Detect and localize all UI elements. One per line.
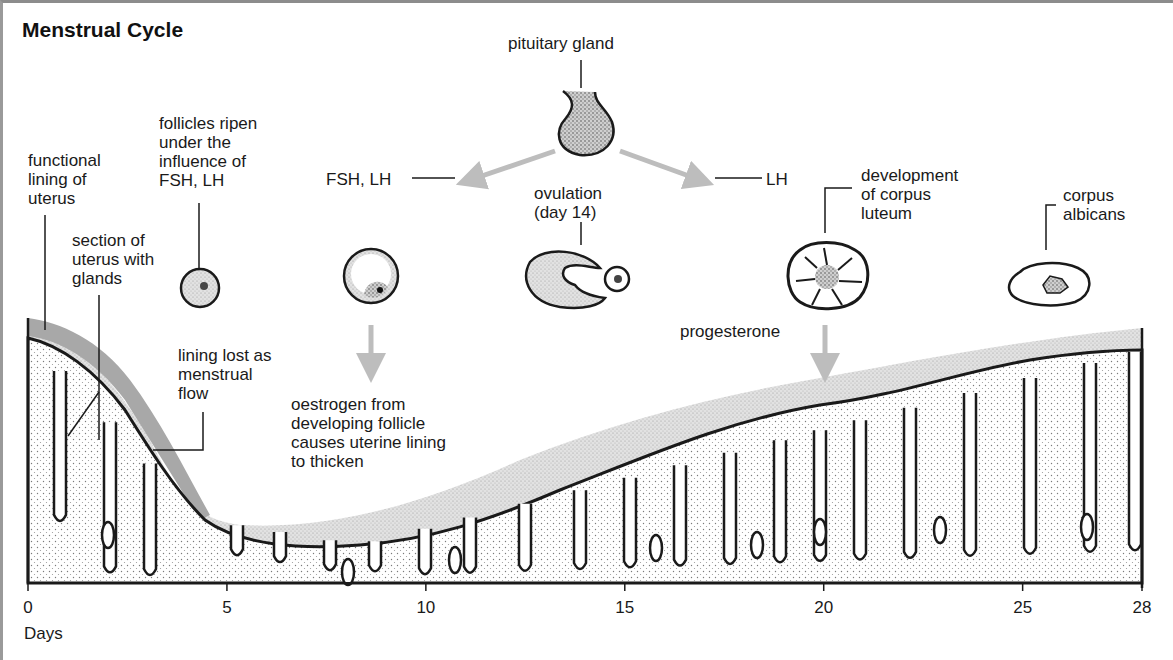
gland-cross-section: [102, 522, 114, 548]
uterine-gland: [419, 529, 431, 574]
uterine-gland: [574, 490, 586, 569]
uterine-gland: [519, 504, 531, 571]
uterine-gland: [674, 465, 686, 565]
uterine-gland: [274, 532, 286, 562]
label-corpus-albicans: corpus albicans: [1063, 186, 1125, 224]
uterine-gland: [774, 440, 786, 562]
gland-cross-section: [650, 535, 662, 561]
label-oestrogen: oestrogen from developing follicle cause…: [291, 395, 446, 471]
label-lh: LH: [766, 170, 788, 189]
arrow-fsh-lh: [470, 151, 555, 180]
arrow-lh: [620, 151, 700, 180]
gland-cross-section: [814, 519, 826, 545]
uterine-gland: [144, 463, 156, 575]
x-tick-label-25: 25: [1013, 598, 1032, 617]
menstrual-cycle-illustration: [0, 0, 1173, 660]
uterine-gland: [464, 518, 476, 573]
corpus-luteum-leader: [825, 188, 852, 233]
x-tick-label-20: 20: [814, 598, 833, 617]
gland-cross-section: [934, 517, 946, 543]
label-ovulation: ovulation (day 14): [534, 184, 602, 222]
uterine-gland: [624, 478, 636, 568]
gland-cross-section: [342, 559, 354, 585]
label-section-of-uterus: section of uterus with glands: [72, 231, 154, 288]
x-tick-label-0: 0: [23, 598, 32, 617]
ovulation-follicle-icon: [526, 252, 605, 308]
uterine-gland: [324, 540, 336, 570]
label-corpus-luteum: development of corpus luteum: [861, 166, 958, 223]
x-tick-label-5: 5: [222, 598, 231, 617]
x-tick-label-28: 28: [1133, 598, 1152, 617]
corpus-albicans-leader: [1046, 205, 1056, 250]
corpus-luteum-center: [815, 265, 839, 289]
follicle-nucleus: [200, 282, 208, 290]
gland-cross-section: [751, 532, 763, 558]
uterine-gland: [1024, 378, 1036, 554]
uterine-gland: [369, 541, 381, 571]
label-functional-lining: functional lining of uterus: [28, 151, 101, 208]
x-axis-label: Days: [24, 624, 63, 643]
label-follicles-ripen: follicles ripen under the influence of F…: [159, 114, 257, 190]
uterine-gland: [724, 453, 736, 564]
x-tick-label-15: 15: [615, 598, 634, 617]
uterine-gland: [231, 525, 243, 555]
gland-cross-section: [1081, 514, 1093, 540]
ripening-follicle-icon: [181, 269, 219, 307]
uterine-gland: [854, 420, 866, 559]
pituitary-gland-shape: [559, 91, 613, 155]
uterine-gland: [964, 393, 976, 556]
label-pituitary-gland: pituitary gland: [508, 34, 614, 53]
gland-cross-section: [449, 547, 461, 573]
uterine-gland: [104, 422, 116, 572]
label-fsh-lh: FSH, LH: [326, 170, 391, 189]
x-tick-label-10: 10: [416, 598, 435, 617]
uterine-gland: [1129, 352, 1141, 550]
label-progesterone: progesterone: [680, 322, 780, 341]
follicle-egg: [377, 287, 383, 293]
uterine-gland: [904, 408, 916, 558]
label-lining-lost: lining lost as menstrual flow: [178, 346, 272, 403]
uterine-gland: [54, 371, 66, 521]
ovum-nucleus: [614, 275, 622, 283]
